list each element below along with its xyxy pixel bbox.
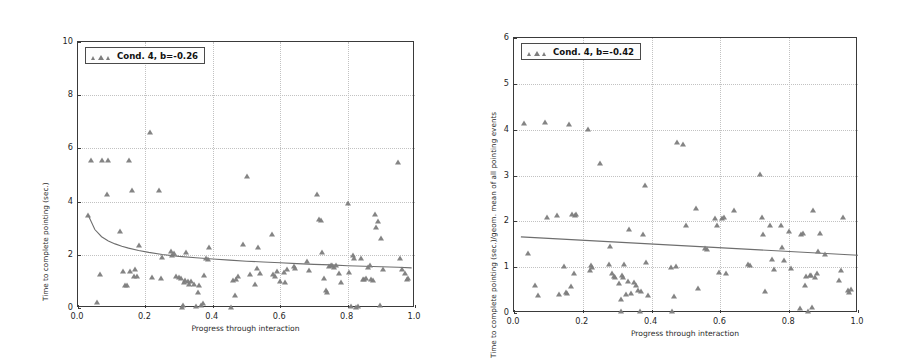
data-point-marker: [695, 286, 701, 291]
data-point-marker: [683, 222, 689, 227]
x-tick-label: 0.0: [70, 311, 83, 321]
legend-label-left: Cond. 4, b=-0.26: [114, 51, 198, 61]
data-point-marker: [257, 271, 263, 276]
y-tick-label: 5: [487, 78, 509, 88]
data-point-marker: [247, 271, 253, 276]
data-point-marker: [375, 218, 381, 223]
data-point-marker: [228, 304, 234, 309]
data-point-marker: [625, 278, 631, 283]
data-point-marker: [618, 308, 624, 313]
data-point-marker: [147, 129, 153, 134]
legend-right: Cond. 4, b=-0.42: [521, 43, 641, 60]
data-point-marker: [767, 223, 773, 228]
data-point-marker: [232, 292, 238, 297]
data-point-marker: [840, 214, 846, 219]
y-tick-label: 0: [487, 307, 509, 317]
data-point-marker: [88, 158, 94, 163]
data-point-marker: [284, 267, 290, 272]
data-point-marker: [800, 230, 806, 235]
data-point-marker: [802, 282, 808, 287]
x-tick-label: 0.0: [506, 316, 519, 326]
y-tickmark: [78, 308, 81, 309]
data-point-marker: [606, 261, 612, 266]
data-point-marker: [395, 160, 401, 165]
x-tickmark: [415, 305, 416, 308]
data-point-marker: [571, 270, 577, 275]
data-point-marker: [638, 289, 644, 294]
data-point-marker: [306, 268, 312, 273]
data-point-marker: [240, 241, 246, 246]
legend-triangle-icon-right: [527, 47, 546, 56]
data-point-marker: [373, 224, 379, 229]
data-point-marker: [788, 266, 794, 271]
x-tick-label: 0.2: [575, 316, 588, 326]
data-point-marker: [304, 258, 310, 263]
y-axis-label-left: Time to complete pointing (sec.): [41, 182, 50, 301]
y-axis-label-right: Time to complete pointing (sec.)/geom. m…: [489, 112, 498, 358]
x-tickmark: [858, 310, 859, 313]
data-point-marker: [712, 215, 718, 220]
data-point-marker: [757, 171, 763, 176]
data-point-marker: [616, 281, 622, 286]
data-point-marker: [566, 121, 572, 126]
data-point-marker: [626, 226, 632, 231]
x-tick-label: 0.6: [273, 311, 286, 321]
data-point-marker: [669, 308, 675, 313]
data-point-marker: [704, 246, 710, 251]
y-tick-label: 4: [487, 124, 509, 134]
data-point-marker: [809, 304, 815, 309]
data-point-marker: [640, 232, 646, 237]
x-tick-label: 0.2: [138, 311, 151, 321]
data-point-marker: [254, 265, 260, 270]
data-point-marker: [405, 276, 411, 281]
data-point-marker: [848, 287, 854, 292]
data-point-marker: [716, 269, 722, 274]
data-point-marker: [607, 243, 613, 248]
data-point-marker: [378, 235, 384, 240]
x-tick-label: 0.8: [782, 316, 795, 326]
data-point-marker: [612, 275, 618, 280]
data-point-marker: [269, 231, 275, 236]
data-point-marker: [158, 275, 164, 280]
data-point-marker: [367, 263, 373, 268]
data-point-marker: [838, 267, 844, 272]
y-tick-label: 6: [487, 32, 509, 42]
y-tick-label: 2: [51, 249, 73, 259]
data-point-marker: [292, 265, 298, 270]
data-point-marker: [252, 282, 258, 287]
data-point-marker: [747, 262, 753, 267]
data-point-marker: [235, 274, 241, 279]
x-axis-label-right: Progress through interaction: [513, 329, 857, 338]
data-point-marker: [314, 191, 320, 196]
data-point-marker: [156, 188, 162, 193]
x-tick-label: 1.0: [850, 316, 863, 326]
x-tick-label: 1.0: [407, 311, 420, 321]
data-point-marker: [201, 272, 207, 277]
data-point-marker: [723, 270, 729, 275]
data-point-marker: [377, 303, 383, 308]
data-point-marker: [535, 292, 541, 297]
data-point-marker: [815, 248, 821, 253]
panel-right: Time to complete pointing (sec.)/geom. m…: [456, 0, 913, 364]
data-point-marker: [370, 277, 376, 282]
data-point-marker: [205, 256, 211, 261]
data-point-marker: [671, 293, 677, 298]
data-point-marker: [372, 211, 378, 216]
legend-left: Cond. 4, b=-0.26: [85, 47, 205, 64]
data-point-marker: [355, 303, 361, 308]
data-point-marker: [812, 275, 818, 280]
figure-two-panel-scatter: Time to complete pointing (sec.) Progres…: [0, 0, 913, 364]
data-point-marker: [618, 297, 624, 302]
data-point-marker: [134, 273, 140, 278]
data-point-marker: [200, 300, 206, 305]
data-point-marker: [129, 188, 135, 193]
data-point-marker: [324, 289, 330, 294]
data-point-marker: [149, 275, 155, 280]
legend-label-right: Cond. 4, b=-0.42: [550, 47, 634, 57]
data-point-marker: [573, 212, 579, 217]
data-point-marker: [564, 290, 570, 295]
data-point-marker: [544, 214, 550, 219]
data-point-marker: [731, 207, 737, 212]
data-point-marker: [255, 244, 261, 249]
data-point-marker: [117, 229, 123, 234]
